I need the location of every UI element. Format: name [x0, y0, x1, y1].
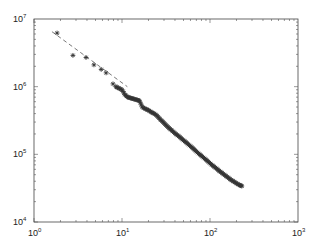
asterisk-marker	[71, 53, 76, 58]
asterisk-marker	[84, 55, 89, 60]
x-tick-label: 103	[292, 227, 306, 238]
x-tick-label: 102	[204, 227, 218, 238]
y-tick-label: 105	[13, 148, 27, 159]
asterisk-marker	[55, 31, 60, 36]
log-log-scatter-chart: 100101102103 104105106107	[0, 0, 316, 246]
y-tick-label: 104	[13, 216, 27, 227]
asterisk-marker	[239, 184, 244, 189]
y-axis-tick-labels: 104105106107	[13, 13, 27, 227]
plot-area	[34, 19, 298, 222]
y-tick-label: 106	[13, 81, 27, 92]
x-tick-label: 101	[116, 227, 130, 238]
x-tick-label: 100	[28, 227, 42, 238]
y-tick-label: 107	[13, 13, 27, 24]
x-axis-tick-labels: 100101102103	[28, 227, 306, 238]
asterisk-marker	[104, 70, 109, 75]
asterisk-marker	[99, 67, 104, 72]
asterisk-marker	[92, 62, 97, 67]
